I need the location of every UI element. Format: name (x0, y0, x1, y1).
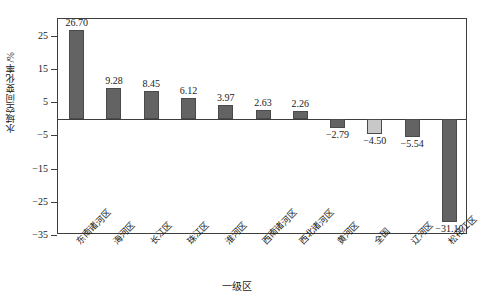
bar-value-label: 9.28 (96, 76, 132, 86)
bar-黄河区[interactable] (330, 119, 345, 128)
y-axis-tick (51, 169, 57, 170)
bar-value-label: −2.79 (320, 130, 356, 140)
bar-value-label: 8.45 (133, 79, 169, 89)
bar-value-label: 26.70 (59, 18, 95, 28)
y-axis-tick (51, 235, 57, 236)
bar-全国[interactable] (367, 119, 382, 134)
plot-area: 25155−5−15−25−3526.709.288.456.123.972.6… (57, 18, 467, 234)
y-axis-tick-label: −5 (37, 130, 48, 140)
bar-海河区[interactable] (106, 88, 121, 119)
bar-辽河区[interactable] (405, 119, 420, 137)
y-axis-tick (51, 135, 57, 136)
bar-淮河区[interactable] (218, 105, 233, 118)
bar-value-label: 3.97 (208, 93, 244, 103)
chart-figure: 水域空间变化率/% 25155−5−15−25−3526.709.288.456… (0, 0, 481, 304)
y-axis-tick (51, 202, 57, 203)
x-axis-title: 一级区 (222, 281, 252, 292)
bar-西南诸河区[interactable] (256, 110, 271, 119)
bar-松花江区[interactable] (442, 119, 457, 222)
bar-珠江区[interactable] (181, 98, 196, 118)
bar-value-label: −4.50 (357, 136, 393, 146)
y-axis-tick (51, 102, 57, 103)
y-axis-tick-label: −25 (32, 197, 48, 207)
y-axis-tick-label: 15 (38, 64, 48, 74)
y-axis-tick (51, 69, 57, 70)
bar-东南诸河区[interactable] (69, 30, 84, 119)
bar-西北诸河区[interactable] (293, 111, 308, 119)
y-axis-tick (51, 36, 57, 37)
bar-value-label: −5.54 (394, 139, 430, 149)
bar-value-label: 2.63 (245, 98, 281, 108)
y-axis-title: 水域空间变化率/% (6, 52, 22, 133)
bar-value-label: 2.26 (282, 99, 318, 109)
y-axis-tick-label: 5 (43, 97, 48, 107)
y-axis-tick-label: −35 (32, 230, 48, 240)
y-axis-tick-label: −15 (32, 164, 48, 174)
bar-value-label: 6.12 (170, 86, 206, 96)
bar-长江区[interactable] (144, 91, 159, 119)
y-axis-tick-label: 25 (38, 31, 48, 41)
